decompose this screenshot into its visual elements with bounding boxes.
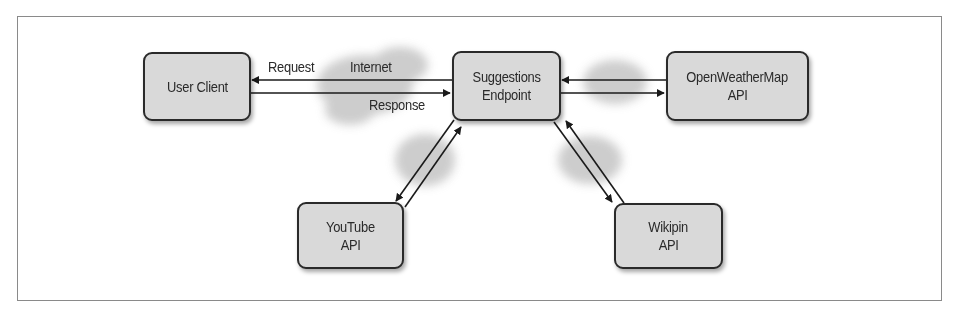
node-openweathermap-api-line2: API: [727, 86, 747, 104]
internet-cloud-wikipin: [558, 136, 622, 184]
node-youtube-api-line1: YouTube: [326, 218, 375, 236]
node-openweathermap-api: OpenWeatherMap API: [666, 51, 809, 121]
internet-cloud-openweathermap: [583, 60, 647, 104]
node-youtube-api-line2: API: [340, 236, 360, 254]
node-user-client-label: User Client: [167, 78, 228, 96]
node-suggestions-endpoint-line1: Suggestions: [472, 68, 540, 86]
node-user-client: User Client: [143, 52, 251, 121]
node-wikipin-api: Wikipin API: [614, 203, 723, 269]
node-suggestions-endpoint: Suggestions Endpoint: [452, 51, 561, 121]
node-suggestions-endpoint-line2: Endpoint: [482, 86, 531, 104]
edge-label-internet: Internet: [350, 59, 392, 75]
node-wikipin-api-line2: API: [658, 236, 678, 254]
node-youtube-api: YouTube API: [297, 202, 404, 269]
node-openweathermap-api-line1: OpenWeatherMap: [687, 68, 789, 86]
edge-label-response: Response: [369, 97, 425, 113]
edge-label-request: Request: [268, 59, 314, 75]
node-wikipin-api-line1: Wikipin: [649, 218, 689, 236]
diagram-canvas: [0, 0, 958, 314]
